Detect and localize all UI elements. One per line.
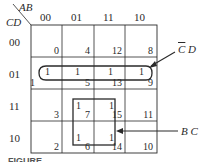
cell-index: 13 (102, 77, 122, 88)
cell-value: 1 (45, 66, 50, 77)
cell-index: 14 (102, 141, 122, 152)
cell-index: 2 (39, 141, 59, 152)
row-variable-label: CD (6, 16, 21, 28)
cell-index: 1 (15, 77, 35, 88)
col-header-11: 11 (103, 11, 114, 23)
cell-index: 4 (70, 45, 90, 56)
cell-index: 3 (39, 109, 59, 120)
cell-index: 11 (133, 109, 153, 120)
cell-index: 12 (102, 45, 122, 56)
row-header-11: 11 (9, 100, 20, 112)
cell-value: 1 (139, 66, 144, 77)
col-header-00: 00 (40, 11, 51, 23)
cell-index: 9 (133, 77, 153, 88)
row-header-10: 10 (9, 132, 20, 144)
cell-index: 0 (39, 45, 59, 56)
group-label-cbar-d: C D (178, 43, 196, 55)
col-header-10: 10 (134, 11, 145, 23)
group-label-bc: B C (181, 125, 198, 137)
cell-index: 7 (70, 109, 90, 120)
cell-index: 15 (102, 109, 122, 120)
cell-value: 1 (75, 66, 80, 77)
col-header-01: 01 (71, 11, 82, 23)
cell-index: 10 (133, 141, 153, 152)
figure-caption: FIGURE (8, 156, 42, 162)
cell-index: 8 (133, 45, 153, 56)
cell-index: 6 (70, 141, 90, 152)
col-variable-label: AB (19, 1, 32, 13)
d-text: D (185, 43, 196, 55)
cell-index: 5 (70, 77, 90, 88)
cell-value: 1 (108, 66, 113, 77)
row-header-00: 00 (9, 36, 20, 48)
